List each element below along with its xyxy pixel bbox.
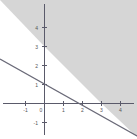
coordinate-plane: -1 0 1 2 3 4 -1 1 2 3 4 bbox=[0, 0, 137, 139]
x-tick-label--1: -1 bbox=[23, 107, 28, 113]
y-tick-label--1: -1 bbox=[34, 120, 39, 126]
x-tick-label-0: 0 bbox=[40, 107, 43, 113]
graph-figure: -1 0 1 2 3 4 -1 1 2 3 4 bbox=[0, 0, 137, 139]
y-tick-label-1: 1 bbox=[35, 82, 38, 88]
y-tick-label-3: 3 bbox=[35, 44, 38, 50]
y-tick-label-4: 4 bbox=[35, 25, 38, 31]
x-tick-label-1: 1 bbox=[62, 107, 65, 113]
x-tick-label-4: 4 bbox=[119, 107, 122, 113]
y-tick-label-2: 2 bbox=[35, 63, 38, 69]
x-tick-label-3: 3 bbox=[100, 107, 103, 113]
x-tick-label-2: 2 bbox=[81, 107, 84, 113]
